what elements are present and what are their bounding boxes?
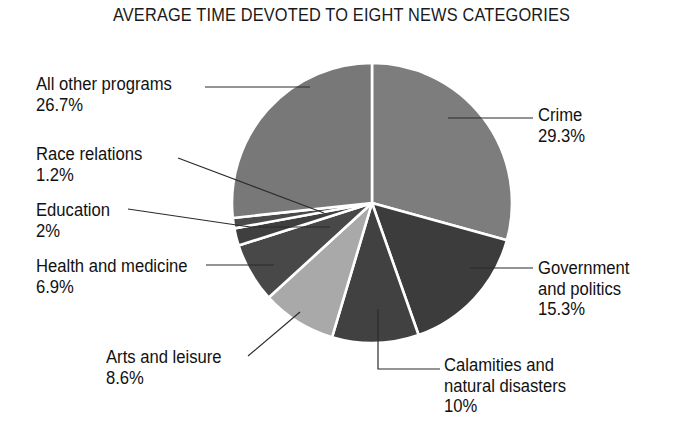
callout-label: Arts and leisure bbox=[106, 347, 222, 368]
callout-label: Health and medicine bbox=[36, 256, 188, 277]
callout-government-and-politics: Government and politics 15.3% bbox=[538, 258, 629, 320]
callout-value: 6.9% bbox=[36, 277, 188, 298]
callout-value: 15.3% bbox=[538, 299, 629, 320]
callout-race-relations: Race relations 1.2% bbox=[36, 144, 142, 185]
callout-value: 26.7% bbox=[36, 95, 172, 116]
callout-label-line1: Calamities and bbox=[444, 355, 566, 376]
callout-value: 1.2% bbox=[36, 165, 142, 186]
callout-education: Education 2% bbox=[36, 200, 110, 241]
callout-arts-and-leisure: Arts and leisure 8.6% bbox=[106, 347, 222, 388]
leader-line-arts-and-leisure bbox=[248, 312, 300, 356]
callout-label: All other programs bbox=[36, 74, 172, 95]
callout-value: 2% bbox=[36, 221, 110, 242]
callout-value: 8.6% bbox=[106, 368, 222, 389]
callout-all-other-programs: All other programs 26.7% bbox=[36, 74, 172, 115]
callout-value: 29.3% bbox=[538, 126, 585, 147]
callout-health-and-medicine: Health and medicine 6.9% bbox=[36, 256, 188, 297]
callout-crime: Crime 29.3% bbox=[538, 105, 585, 146]
pie-chart-figure: AVERAGE TIME DEVOTED TO EIGHT NEWS CATEG… bbox=[0, 0, 683, 430]
callout-label: Crime bbox=[538, 105, 585, 126]
pie-slice-group bbox=[232, 63, 512, 343]
pie-slice-all-other-programs bbox=[232, 63, 372, 218]
callout-value: 10% bbox=[444, 396, 566, 417]
callout-label: Education bbox=[36, 200, 110, 221]
callout-label: Race relations bbox=[36, 144, 142, 165]
callout-label-line1: Government bbox=[538, 258, 629, 279]
callout-label-line2: and politics bbox=[538, 279, 629, 300]
callout-calamities-and-natural-disasters: Calamities and natural disasters 10% bbox=[444, 355, 566, 417]
callout-label-line2: natural disasters bbox=[444, 376, 566, 397]
